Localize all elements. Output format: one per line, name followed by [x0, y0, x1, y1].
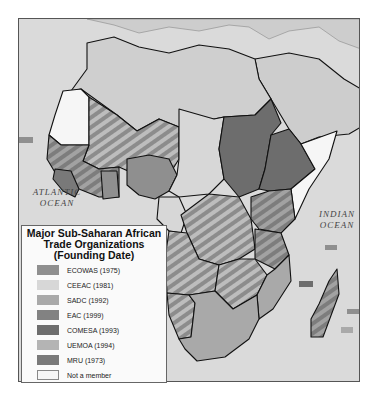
- island-comoros: [299, 281, 313, 287]
- atlantic-ocean-label: ATLANTIC OCEAN: [27, 187, 87, 209]
- legend-swatch: [37, 280, 59, 290]
- legend-title: Major Sub-Saharan African Trade Organiza…: [22, 228, 166, 261]
- region-uganda-kenya: [251, 189, 295, 233]
- region-ghana: [101, 171, 119, 199]
- legend-swatch: [37, 265, 59, 275]
- legend-item-ceeac: CEEAC (1981): [37, 279, 113, 291]
- legend-item-ecowas: ECOWAS (1975): [37, 264, 120, 276]
- legend-swatch: [37, 370, 59, 380]
- legend-item-not-member: Not a member: [37, 369, 111, 381]
- legend-item-eac: EAC (1999): [37, 309, 104, 321]
- legend-item-uemoa: UEMOA (1994): [37, 339, 114, 351]
- legend-item-mru: MRU (1973): [37, 354, 105, 366]
- island-seychelles: [325, 245, 337, 250]
- legend-swatch: [37, 310, 59, 320]
- region-mauritania: [49, 89, 89, 145]
- legend-item-sadc: SADC (1992): [37, 294, 109, 306]
- legend-swatch: [37, 355, 59, 365]
- island-reunion: [341, 327, 353, 333]
- legend-swatch: [37, 325, 59, 335]
- legend-swatch: [37, 295, 59, 305]
- legend-item-comesa: COMESA (1993): [37, 324, 119, 336]
- island-mauritius: [347, 309, 359, 314]
- region-madagascar: [311, 269, 339, 337]
- legend-swatch: [37, 340, 59, 350]
- region-namibia: [167, 293, 195, 339]
- region-nigeria: [127, 155, 177, 199]
- indian-ocean-label: INDIAN OCEAN: [309, 209, 360, 231]
- legend: Major Sub-Saharan African Trade Organiza…: [21, 225, 167, 383]
- island-cape-verde: [19, 137, 33, 143]
